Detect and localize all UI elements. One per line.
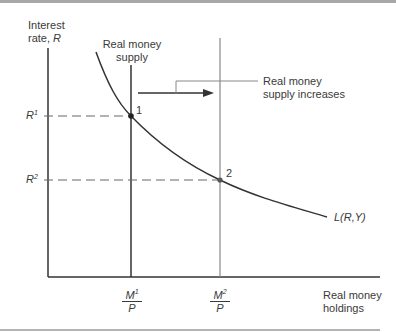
supply-shift-label: Real money supply increases: [263, 75, 345, 101]
demand-curve-label: L(R,Y): [334, 211, 366, 224]
x-tick-m1-over-p: M1 P: [122, 289, 142, 314]
shift-arrow-head: [203, 89, 214, 97]
supply-label-line1: Real money: [102, 38, 162, 51]
y-axis-variable: R: [53, 32, 61, 44]
x-axis-label: Real money holdings: [323, 289, 382, 315]
x-tick-m2-over-p: M2 P: [210, 289, 230, 314]
supply-shift-label-line1: Real money: [263, 75, 345, 88]
point-1-label: 1: [136, 104, 142, 117]
y-tick-r2: R2: [26, 173, 38, 186]
y-tick-r1: R1: [26, 109, 38, 122]
point-2-label: 2: [226, 167, 232, 180]
top-frame-rule: [0, 0, 396, 3]
equilibrium-point-1: [128, 113, 134, 119]
y-axis-label-line1: Interest: [28, 19, 65, 32]
money-market-diagram: [0, 0, 396, 332]
y-axis-label-line2: rate,: [28, 32, 53, 44]
y-axis-label: Interest rate, R: [28, 19, 65, 45]
equilibrium-point-2: [217, 177, 222, 182]
x-axis-label-line2: holdings: [323, 302, 382, 315]
callout-leader-line: [176, 81, 258, 93]
supply-label-line2: supply: [102, 51, 162, 64]
supply-label: Real money supply: [102, 38, 162, 64]
supply-shift-label-line2: supply increases: [263, 88, 345, 101]
x-axis-label-line1: Real money: [323, 289, 382, 302]
